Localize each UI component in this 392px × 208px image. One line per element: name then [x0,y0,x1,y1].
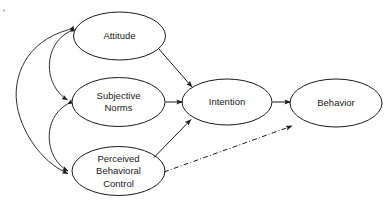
node-perceived-behavioral-control-label-line2: Behavioral [96,165,141,176]
tpb-diagram: Attitude Subjective Norms Perceived Beha… [0,0,392,208]
diagram-canvas: Attitude Subjective Norms Perceived Beha… [0,0,392,208]
node-behavior[interactable]: Behavior [290,79,382,127]
node-subjective-norms-label-line1: Subjective [97,90,141,101]
edge-subjective-norms-perceived-behavioral-control-correlation [49,104,68,171]
edge-attitude-perceived-behavioral-control-correlation [16,30,69,174]
edge-attitude-subjective-norms-correlation [49,32,69,101]
node-subjective-norms[interactable]: Subjective Norms [72,78,165,127]
node-perceived-behavioral-control-label-line3: Control [103,178,134,189]
node-attitude[interactable]: Attitude [74,12,166,60]
node-intention-label: Intention [209,96,245,107]
edge-attitude-to-intention [159,49,193,88]
edge-perceived-behavioral-control-to-behavior [164,126,292,172]
edge-perceived-behavioral-control-to-intention [154,120,191,158]
node-perceived-behavioral-control[interactable]: Perceived Behavioral Control [72,147,165,196]
node-perceived-behavioral-control-label-line1: Perceived [97,153,139,164]
node-subjective-norms-label-line2: Norms [105,102,133,113]
node-attitude-label: Attitude [103,30,135,41]
node-behavior-label: Behavior [317,97,355,108]
node-intention[interactable]: Intention [182,79,272,125]
